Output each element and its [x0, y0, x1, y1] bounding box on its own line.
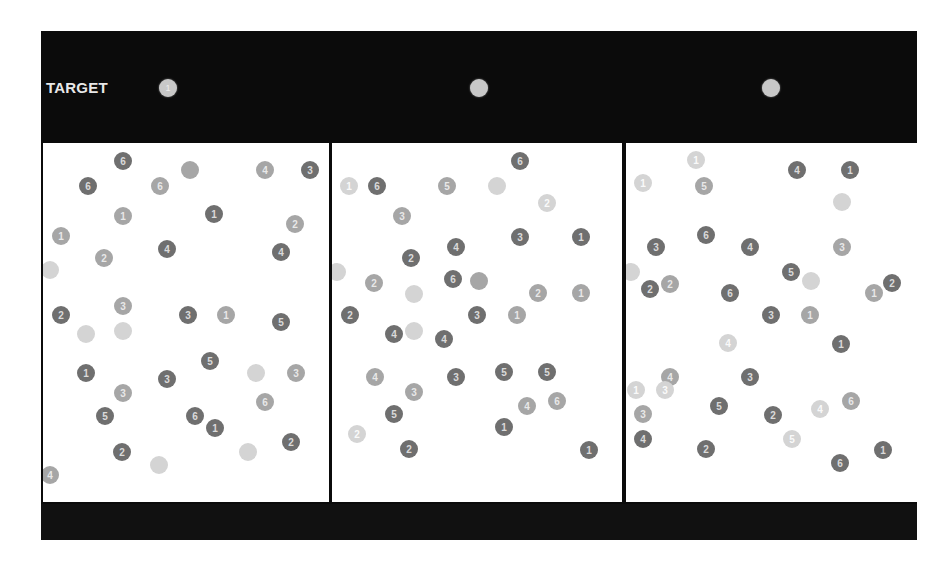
number-circle[interactable]: 4: [518, 397, 536, 415]
number-circle[interactable]: 6: [368, 177, 386, 195]
number-circle[interactable]: 3: [741, 368, 759, 386]
number-circle[interactable]: 4: [788, 161, 806, 179]
number-circle[interactable]: 3: [647, 238, 665, 256]
number-circle[interactable]: 5: [385, 405, 403, 423]
number-circle[interactable]: [405, 322, 423, 340]
number-circle[interactable]: 1: [801, 306, 819, 324]
number-circle[interactable]: 2: [365, 274, 383, 292]
number-circle[interactable]: 4: [634, 430, 652, 448]
number-circle[interactable]: 1: [205, 205, 223, 223]
number-circle[interactable]: 3: [833, 238, 851, 256]
number-circle[interactable]: 1: [832, 335, 850, 353]
number-circle[interactable]: 2: [95, 249, 113, 267]
number-circle[interactable]: [833, 193, 851, 211]
number-circle[interactable]: 3: [158, 370, 176, 388]
number-circle[interactable]: 1: [865, 284, 883, 302]
number-circle[interactable]: 1: [634, 174, 652, 192]
number-circle[interactable]: 2: [52, 306, 70, 324]
number-circle[interactable]: 3: [114, 384, 132, 402]
number-circle[interactable]: 5: [201, 352, 219, 370]
number-circle[interactable]: 2: [641, 280, 659, 298]
number-circle[interactable]: 6: [842, 392, 860, 410]
number-circle[interactable]: 1: [340, 177, 358, 195]
number-circle[interactable]: 2: [661, 275, 679, 293]
number-circle[interactable]: 1: [114, 207, 132, 225]
number-circle[interactable]: 2: [400, 440, 418, 458]
number-circle[interactable]: 4: [158, 240, 176, 258]
number-circle[interactable]: [247, 364, 265, 382]
number-circle[interactable]: 2: [529, 284, 547, 302]
number-circle[interactable]: 6: [79, 177, 97, 195]
number-circle[interactable]: 1: [572, 228, 590, 246]
number-circle[interactable]: 2: [764, 406, 782, 424]
number-circle[interactable]: 6: [444, 270, 462, 288]
number-circle[interactable]: [802, 272, 820, 290]
number-circle[interactable]: 4: [435, 330, 453, 348]
number-circle[interactable]: [488, 177, 506, 195]
number-circle[interactable]: 6: [697, 226, 715, 244]
number-circle[interactable]: 2: [286, 215, 304, 233]
number-circle[interactable]: 3: [656, 381, 674, 399]
number-circle[interactable]: 2: [341, 306, 359, 324]
number-circle[interactable]: [43, 261, 59, 279]
number-circle[interactable]: 4: [385, 325, 403, 343]
number-circle[interactable]: 6: [151, 177, 169, 195]
number-circle[interactable]: 2: [883, 274, 901, 292]
number-circle[interactable]: [626, 263, 640, 281]
number-circle[interactable]: 4: [272, 243, 290, 261]
number-circle[interactable]: 5: [783, 430, 801, 448]
number-circle[interactable]: 4: [447, 238, 465, 256]
number-circle[interactable]: 3: [287, 364, 305, 382]
number-circle[interactable]: 3: [447, 368, 465, 386]
number-circle[interactable]: 1: [580, 441, 598, 459]
number-circle[interactable]: 1: [495, 418, 513, 436]
number-circle[interactable]: 2: [538, 194, 556, 212]
number-circle[interactable]: 4: [43, 466, 59, 484]
number-circle[interactable]: 1: [627, 381, 645, 399]
number-circle[interactable]: 3: [511, 228, 529, 246]
number-circle[interactable]: 3: [301, 161, 319, 179]
number-circle[interactable]: 6: [256, 393, 274, 411]
number-circle[interactable]: 5: [96, 407, 114, 425]
number-circle[interactable]: 3: [405, 383, 423, 401]
number-circle[interactable]: 6: [548, 392, 566, 410]
number-circle[interactable]: 5: [272, 313, 290, 331]
number-circle[interactable]: 6: [511, 152, 529, 170]
number-circle[interactable]: 2: [402, 249, 420, 267]
number-circle[interactable]: 1: [206, 419, 224, 437]
number-circle[interactable]: [405, 285, 423, 303]
number-circle[interactable]: [77, 325, 95, 343]
number-circle[interactable]: 1: [841, 161, 859, 179]
number-circle[interactable]: 5: [710, 397, 728, 415]
number-circle[interactable]: 3: [468, 306, 486, 324]
number-circle[interactable]: 5: [695, 177, 713, 195]
number-circle[interactable]: 1: [77, 364, 95, 382]
number-circle[interactable]: 1: [572, 284, 590, 302]
number-circle[interactable]: 3: [393, 207, 411, 225]
number-circle[interactable]: 1: [687, 151, 705, 169]
number-circle[interactable]: 2: [348, 425, 366, 443]
number-circle[interactable]: 6: [186, 407, 204, 425]
number-circle[interactable]: 4: [811, 400, 829, 418]
number-circle[interactable]: 2: [113, 443, 131, 461]
number-circle[interactable]: [239, 443, 257, 461]
number-circle[interactable]: [114, 322, 132, 340]
number-circle[interactable]: 3: [634, 405, 652, 423]
number-circle[interactable]: 2: [697, 440, 715, 458]
number-circle[interactable]: [470, 272, 488, 290]
number-circle[interactable]: 5: [495, 363, 513, 381]
number-circle[interactable]: 6: [721, 284, 739, 302]
number-circle[interactable]: 1: [52, 227, 70, 245]
number-circle[interactable]: 1: [217, 306, 235, 324]
number-circle[interactable]: 4: [256, 161, 274, 179]
number-circle[interactable]: 2: [282, 433, 300, 451]
number-circle[interactable]: 5: [438, 177, 456, 195]
number-circle[interactable]: 6: [831, 454, 849, 472]
number-circle[interactable]: 3: [114, 297, 132, 315]
number-circle[interactable]: 4: [366, 368, 384, 386]
number-circle[interactable]: 5: [538, 363, 556, 381]
number-circle[interactable]: 3: [762, 306, 780, 324]
number-circle[interactable]: 4: [719, 334, 737, 352]
number-circle[interactable]: [181, 161, 199, 179]
number-circle[interactable]: 4: [741, 238, 759, 256]
